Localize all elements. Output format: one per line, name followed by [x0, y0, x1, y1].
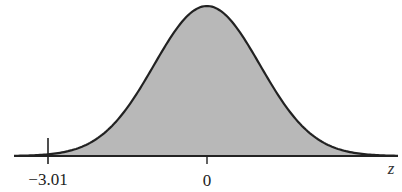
tick-label-zero: 0 — [203, 171, 212, 190]
tick-label-cutoff: −3.01 — [28, 170, 67, 189]
normal-curve-chart: −3.01 0 z — [0, 0, 402, 192]
axis-label-z: z — [387, 159, 395, 178]
shaded-area — [48, 6, 398, 156]
